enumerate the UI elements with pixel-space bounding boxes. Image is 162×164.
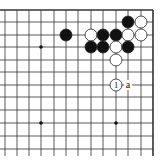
star-point (39, 45, 43, 49)
stones: 1 (60, 16, 147, 91)
white-stone (110, 41, 122, 53)
black-stone (122, 16, 134, 28)
white-stone (122, 29, 134, 41)
white-stone (135, 29, 147, 41)
black-stone (110, 29, 122, 41)
black-stone (85, 41, 97, 53)
star-point (39, 121, 43, 125)
black-stone (122, 41, 134, 53)
point-marker-label: a (126, 79, 131, 90)
black-stone (97, 41, 109, 53)
white-stone (135, 16, 147, 28)
go-board: 1 a (0, 0, 162, 164)
white-stone (110, 54, 122, 66)
white-stone (85, 29, 97, 41)
black-stone (60, 29, 72, 41)
black-stone (97, 29, 109, 41)
star-point (114, 121, 118, 125)
markers: a (124, 79, 132, 90)
stone-number: 1 (114, 80, 118, 90)
